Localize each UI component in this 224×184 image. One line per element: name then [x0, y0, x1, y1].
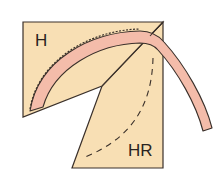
label-h: H — [35, 31, 47, 50]
label-hr: HR — [128, 141, 153, 160]
quilt-diagram: H HR — [0, 0, 224, 184]
